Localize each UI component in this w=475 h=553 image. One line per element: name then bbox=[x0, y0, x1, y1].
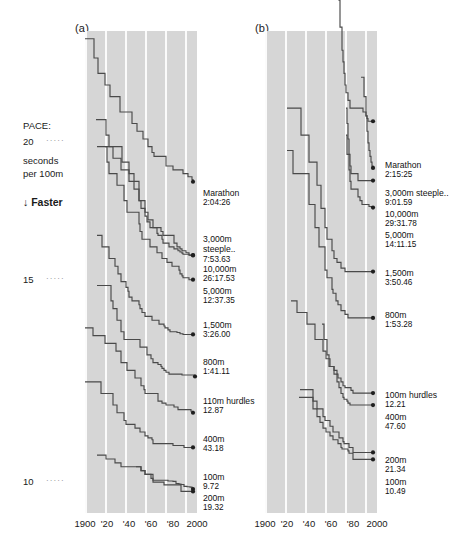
series-label-b-steeple-time: 9:01.59 bbox=[385, 198, 449, 208]
series-endpoint-b-7 bbox=[371, 403, 375, 407]
series-label-b-100mh-event: 100m hurdles bbox=[385, 390, 437, 400]
series-label-b-10000m: 10,000m 29:31.78 bbox=[385, 209, 418, 230]
series-endpoint-b-5 bbox=[371, 316, 375, 320]
series-line-b-1 bbox=[361, 77, 373, 168]
series-endpoint-b-1 bbox=[371, 166, 375, 170]
series-label-b-marathon-time: 2:15:25 bbox=[385, 170, 421, 180]
series-line-b-6 bbox=[291, 301, 373, 393]
xtick-b-3: '60 bbox=[325, 518, 337, 529]
series-endpoint-b-0 bbox=[371, 119, 375, 123]
series-endpoint-b-9 bbox=[371, 457, 375, 461]
series-label-b-1500m-time: 3:50.46 bbox=[385, 278, 414, 288]
xtick-b-1: '20 bbox=[281, 518, 293, 529]
series-endpoint-b-2 bbox=[371, 179, 375, 183]
series-label-b-10000m-event: 10,000m bbox=[385, 209, 418, 219]
series-label-b-marathon: Marathon 2:15:25 bbox=[385, 160, 421, 181]
series-label-b-200m: 200m 21.34 bbox=[385, 455, 407, 476]
series-endpoint-b-8 bbox=[371, 450, 375, 454]
series-label-b-5000m-time: 14:11.15 bbox=[385, 240, 416, 250]
series-label-b-5000m-event: 5,000m bbox=[385, 230, 416, 240]
series-line-b-8 bbox=[300, 390, 373, 453]
series-label-b-steeple-event: 3,000m steeple.. bbox=[385, 188, 449, 198]
series-label-b-10000m-time: 29:31.78 bbox=[385, 219, 418, 229]
series-endpoint-b-3 bbox=[371, 206, 375, 210]
series-line-b-5 bbox=[287, 151, 373, 318]
series-label-b-100m-event: 100m bbox=[385, 477, 407, 487]
series-label-b-800m-event: 800m bbox=[385, 310, 412, 320]
figure-root: (a) PACE: 20····· seconds per 100m ↓ Fas… bbox=[0, 0, 475, 553]
series-label-b-100mh-time: 12.21 bbox=[385, 400, 437, 410]
xtick-b-4: '80 bbox=[347, 518, 359, 529]
series-label-b-400m: 400m 47.60 bbox=[385, 412, 407, 433]
series-endpoint-b-4 bbox=[371, 270, 375, 274]
xtick-b-0: 1900 bbox=[254, 518, 275, 529]
series-label-b-marathon-event: Marathon bbox=[385, 160, 421, 170]
series-label-b-800m: 800m 1:53.28 bbox=[385, 310, 412, 331]
xtick-b-2: '40 bbox=[303, 518, 315, 529]
series-label-b-1500m: 1,500m 3:50.46 bbox=[385, 268, 414, 289]
series-label-b-100mh: 100m hurdles 12.21 bbox=[385, 390, 437, 411]
series-label-b-5000m: 5,000m 14:11.15 bbox=[385, 230, 416, 251]
series-label-b-800m-time: 1:53.28 bbox=[385, 320, 412, 330]
series-label-b-200m-time: 21.34 bbox=[385, 465, 407, 475]
series-label-b-steeple: 3,000m steeple.. 9:01.59 bbox=[385, 188, 449, 209]
series-label-b-100m: 100m 10.49 bbox=[385, 477, 407, 498]
series-label-b-200m-event: 200m bbox=[385, 455, 407, 465]
series-endpoint-b-6 bbox=[371, 391, 375, 395]
series-label-b-1500m-event: 1,500m bbox=[385, 268, 414, 278]
series-label-b-400m-event: 400m bbox=[385, 412, 407, 422]
series-line-b-4 bbox=[287, 108, 373, 271]
xtick-b-5: 2000 bbox=[366, 518, 387, 529]
series-line-b-9 bbox=[299, 397, 373, 459]
series-label-b-400m-time: 47.60 bbox=[385, 422, 407, 432]
series-label-b-100m-time: 10.49 bbox=[385, 487, 407, 497]
